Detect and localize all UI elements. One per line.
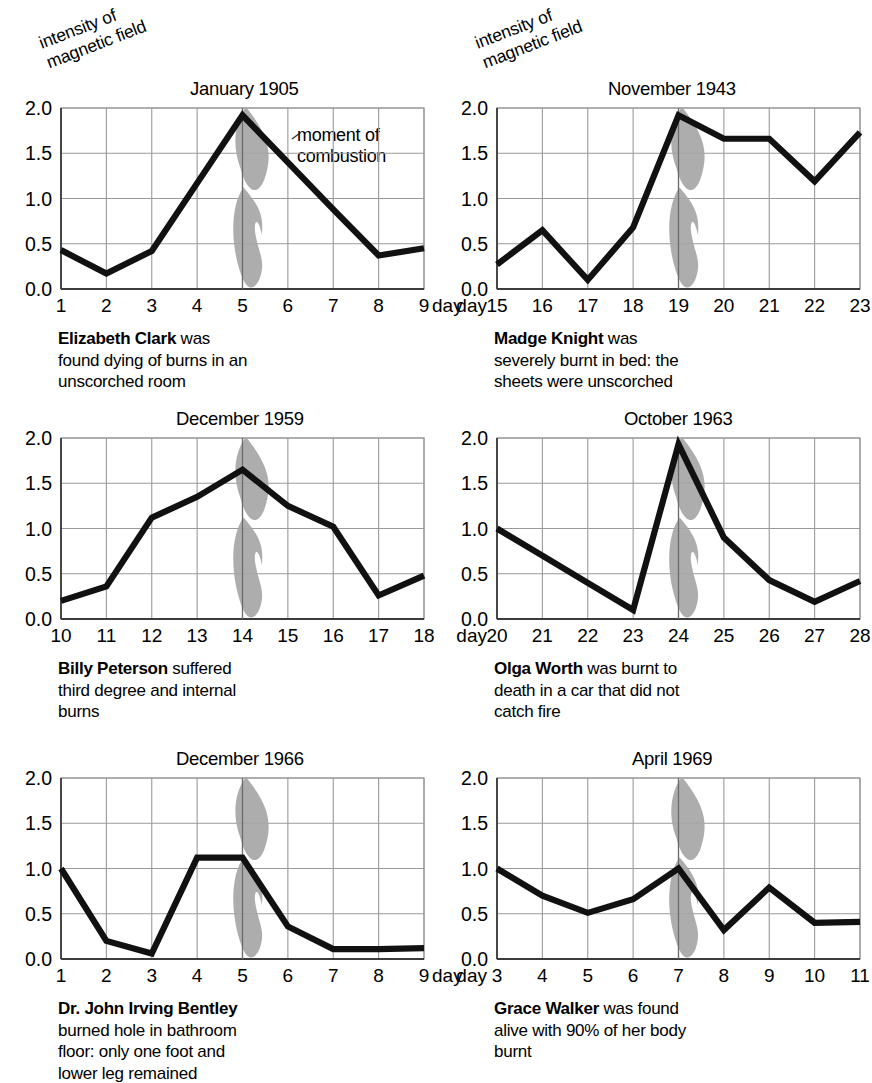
y-tick-label: 1.5	[25, 142, 52, 164]
x-tick-label: 21	[532, 625, 553, 646]
x-tick-label: 2	[101, 965, 112, 986]
x-tick-label: 9	[419, 965, 430, 986]
x-tick-label: 13	[187, 625, 208, 646]
x-tick-label: 8	[719, 965, 730, 986]
x-tick-label: 6	[628, 965, 639, 986]
x-tick-label: 4	[192, 965, 203, 986]
case-caption: Grace Walker was found alive with 90% of…	[494, 998, 686, 1063]
x-tick-label: 21	[759, 295, 780, 316]
x-tick-label: 23	[849, 295, 870, 316]
y-tick-label: 2.0	[461, 767, 488, 789]
y-tick-label: 0.5	[25, 563, 52, 585]
x-tick-label: 16	[532, 295, 553, 316]
y-tick-label: 0.0	[25, 948, 52, 970]
plot-area: 0.00.51.01.52.0151617181920212223day	[436, 0, 872, 330]
x-tick-label: 20	[486, 625, 507, 646]
case-caption: Dr. John Irving Bentley burned hole in b…	[58, 998, 237, 1083]
y-tick-label: 1.0	[25, 858, 52, 880]
y-tick-label: 0.5	[461, 233, 488, 255]
x-tick-label: 4	[192, 295, 203, 316]
x-tick-label: 2	[101, 295, 112, 316]
x-axis-day-label: day	[456, 295, 487, 316]
plot-area: 0.00.51.01.52.034567891011day	[436, 670, 872, 945]
x-tick-label: 11	[97, 625, 117, 646]
x-tick-label: 14	[232, 625, 254, 646]
x-tick-label: 9	[764, 965, 775, 986]
x-tick-label: 10	[804, 965, 825, 986]
y-tick-label: 1.5	[25, 812, 52, 834]
x-tick-label: 7	[328, 295, 339, 316]
x-tick-label: 20	[713, 295, 734, 316]
plot-area: 0.00.51.01.52.0101112131415161718	[0, 330, 436, 595]
x-tick-label: 1	[56, 965, 67, 986]
y-tick-label: 2.0	[461, 427, 488, 449]
x-tick-label: 12	[141, 625, 162, 646]
x-tick-label: 4	[537, 965, 548, 986]
y-tick-label: 0.5	[461, 563, 488, 585]
y-tick-label: 2.0	[461, 97, 488, 119]
y-tick-label: 2.0	[25, 767, 52, 789]
x-tick-label: 6	[283, 295, 294, 316]
x-tick-label: 11	[850, 965, 870, 986]
x-tick-label: 19	[668, 295, 689, 316]
x-tick-label: 27	[804, 625, 825, 646]
x-tick-label: 18	[623, 295, 644, 316]
chart-figure: intensity of magnetic field January 1905…	[0, 0, 872, 1083]
y-tick-label: 1.0	[25, 518, 52, 540]
x-tick-label: 8	[373, 965, 384, 986]
y-tick-label: 0.0	[25, 608, 52, 630]
x-axis-day-label: day	[456, 625, 487, 646]
x-tick-label: 3	[146, 295, 157, 316]
x-tick-label: 24	[668, 625, 690, 646]
x-tick-label: 17	[368, 625, 389, 646]
case-caption-name: Grace Walker	[494, 999, 599, 1018]
y-tick-label: 2.0	[25, 427, 52, 449]
y-tick-label: 1.5	[461, 142, 488, 164]
y-tick-label: 2.0	[25, 97, 52, 119]
y-tick-label: 1.5	[461, 472, 488, 494]
x-tick-label: 3	[492, 965, 503, 986]
x-tick-label: 25	[713, 625, 734, 646]
x-tick-label: 8	[373, 295, 384, 316]
x-tick-label: 15	[486, 295, 507, 316]
x-tick-label: 5	[237, 965, 248, 986]
y-tick-label: 1.0	[461, 188, 488, 210]
x-tick-label: 22	[577, 625, 598, 646]
x-tick-label: 3	[146, 965, 157, 986]
x-tick-label: 6	[283, 965, 294, 986]
x-tick-label: 26	[759, 625, 780, 646]
x-axis-day-label: day	[456, 965, 487, 986]
x-tick-label: 17	[577, 295, 598, 316]
plot-area: 0.00.51.01.52.0123456789day	[0, 670, 436, 945]
chart-panel-april-1969: April 1969 0.00.51.01.52.034567891011day…	[436, 730, 872, 1083]
x-tick-label: 28	[849, 625, 870, 646]
y-tick-label: 1.0	[461, 858, 488, 880]
y-tick-label: 0.5	[461, 903, 488, 925]
case-caption-rest: burned hole in bathroom floor: only one …	[58, 1021, 237, 1083]
x-tick-label: 9	[419, 295, 430, 316]
y-tick-label: 1.0	[461, 518, 488, 540]
y-tick-label: 0.5	[25, 233, 52, 255]
plot-area: 0.00.51.01.52.0123456789day	[0, 0, 436, 330]
x-tick-label: 23	[623, 625, 644, 646]
chart-panel-december-1966: December 1966 0.00.51.01.52.0123456789da…	[0, 730, 436, 1083]
y-tick-label: 1.5	[461, 812, 488, 834]
x-tick-label: 7	[673, 965, 684, 986]
x-tick-label: 1	[56, 295, 67, 316]
y-tick-label: 1.0	[25, 188, 52, 210]
plot-area: 0.00.51.01.52.0202122232425262728day	[436, 330, 872, 595]
x-tick-label: 10	[50, 625, 71, 646]
y-tick-label: 0.0	[25, 278, 52, 300]
x-tick-label: 5	[582, 965, 593, 986]
x-tick-label: 5	[237, 295, 248, 316]
case-caption-name: Dr. John Irving Bentley	[58, 999, 237, 1018]
y-tick-label: 1.5	[25, 472, 52, 494]
x-tick-label: 22	[804, 295, 825, 316]
y-tick-label: 0.5	[25, 903, 52, 925]
x-tick-label: 15	[277, 625, 298, 646]
x-tick-label: 16	[323, 625, 344, 646]
x-tick-label: 18	[413, 625, 434, 646]
x-tick-label: 7	[328, 965, 339, 986]
